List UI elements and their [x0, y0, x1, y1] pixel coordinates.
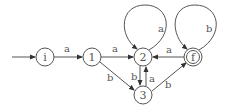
state-label-i: i	[43, 51, 47, 64]
state-3: 3	[134, 86, 152, 104]
state-label-3: 3	[140, 89, 147, 102]
edge-label-f-2: a	[166, 44, 172, 55]
state-i: i	[36, 48, 54, 66]
state-2: 2	[134, 48, 152, 66]
edge-label-1-3: b	[107, 72, 113, 83]
edge-label-i-1: a	[64, 43, 70, 54]
edge-1-3	[100, 62, 134, 90]
edge-label-f-f: b	[206, 23, 212, 34]
edge-label-2-3: b	[131, 71, 137, 82]
automaton-diagram: a a b a b a b a b i 1 2 3 f	[0, 0, 228, 110]
edge-label-1-2: a	[112, 43, 118, 54]
state-label-2: 2	[140, 51, 147, 64]
state-1: 1	[83, 48, 101, 66]
edge-label-2-2: a	[158, 23, 164, 34]
edge-label-3-f: b	[165, 79, 171, 90]
state-label-1: 1	[89, 51, 96, 64]
state-f-accepting: f	[184, 48, 202, 66]
edge-label-3-2: a	[149, 73, 155, 84]
